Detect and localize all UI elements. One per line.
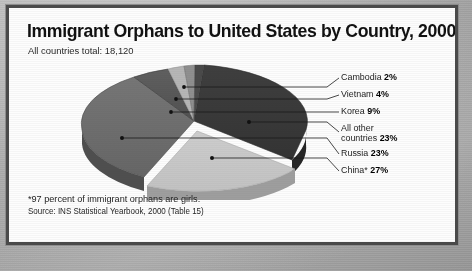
leader-line-vietnam	[177, 95, 339, 99]
label-cambodia-name: Cambodia	[341, 72, 382, 82]
label-all-other-line2: countries	[341, 133, 377, 143]
label-korea-value: 9%	[367, 106, 380, 116]
label-cambodia: Cambodia 2%	[341, 73, 397, 83]
label-vietnam-name: Vietnam	[341, 89, 374, 99]
label-korea: Korea 9%	[341, 107, 380, 117]
label-all-other-value: 23%	[380, 133, 398, 143]
label-russia-name: Russia	[341, 148, 368, 158]
label-korea-name: Korea	[341, 106, 365, 116]
label-all-other-countries: All other countries 23%	[341, 124, 397, 144]
figure-panel: Immigrant Orphans to United States by Co…	[9, 8, 455, 242]
label-cambodia-value: 2%	[384, 72, 397, 82]
leader-line-all-other	[250, 122, 339, 132]
label-vietnam-value: 4%	[376, 89, 389, 99]
label-china-value: 27%	[370, 165, 388, 175]
figure-root: Immigrant Orphans to United States by Co…	[0, 0, 472, 271]
label-vietnam: Vietnam 4%	[341, 90, 389, 100]
label-russia-value: 23%	[371, 148, 389, 158]
leader-line-cambodia	[185, 78, 339, 87]
figure-footnote: *97 percent of immigrant orphans are gir…	[28, 194, 200, 204]
label-russia: Russia 23%	[341, 149, 389, 159]
leader-line-russia	[123, 138, 339, 154]
leader-line-china	[213, 158, 339, 171]
figure-frame: Immigrant Orphans to United States by Co…	[6, 5, 458, 245]
label-china-name: China*	[341, 165, 368, 175]
label-all-other-line1: All other	[341, 123, 374, 133]
label-china: China* 27%	[341, 166, 388, 176]
figure-source: Source: INS Statistical Yearbook, 2000 (…	[28, 207, 204, 216]
